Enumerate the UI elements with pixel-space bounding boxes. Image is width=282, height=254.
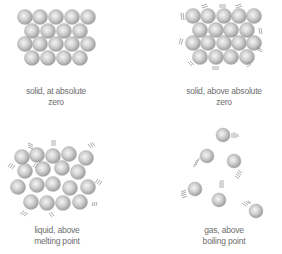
particle-sphere [72, 50, 87, 65]
liquid-cluster [8, 141, 102, 217]
particle-sphere [55, 195, 70, 210]
particle-sphere [29, 177, 44, 192]
particle-sphere [32, 9, 47, 24]
particle-sphere [64, 36, 79, 51]
particle-sphere [72, 194, 87, 209]
particle-sphere [227, 154, 241, 168]
particle-sphere [200, 35, 215, 50]
particle-sphere [32, 36, 47, 51]
particle-sphere [39, 195, 54, 210]
states-of-matter-diagram: solid, at absolute zero solid, above abs… [0, 0, 282, 254]
label-line-1: liquid, above [2, 225, 112, 236]
label-line-1: solid, at absolute [1, 86, 111, 97]
particle-sphere [192, 22, 207, 37]
particle-sphere [239, 22, 254, 37]
particle-sphere [185, 8, 200, 23]
solid-above-zero-lattice [179, 4, 262, 69]
particle-sphere [239, 49, 254, 64]
label-solid-absolute-zero: solid, at absolute zero [1, 86, 111, 108]
diagram-canvas [0, 0, 282, 254]
particle-sphere [62, 180, 77, 195]
particle-sphere [200, 8, 215, 23]
particle-sphere [249, 204, 263, 218]
particle-sphere [29, 147, 44, 162]
particle-sphere [208, 49, 223, 64]
particle-sphere [200, 149, 214, 163]
label-line-2: zero [169, 97, 279, 108]
particle-sphere [80, 36, 95, 51]
particle-sphere [246, 8, 261, 23]
gas-particles [181, 128, 263, 218]
particle-sphere [48, 36, 63, 51]
label-solid-above-absolute-zero: solid, above absolute zero [169, 86, 279, 108]
particle-sphere [10, 179, 25, 194]
particle-sphere [216, 8, 231, 23]
particle-sphere [80, 179, 95, 194]
particle-sphere [45, 176, 60, 191]
particle-sphere [223, 22, 238, 37]
particle-sphere [17, 36, 32, 51]
particle-sphere [40, 23, 55, 38]
particle-sphere [212, 193, 226, 207]
label-line-1: gas, above [169, 225, 279, 236]
particle-sphere [216, 35, 231, 50]
solid-absolute-zero-lattice [17, 9, 95, 65]
particle-sphere [188, 182, 202, 196]
label-line-2: zero [1, 97, 111, 108]
particle-sphere [45, 148, 60, 163]
particle-sphere [14, 149, 29, 164]
particle-sphere [208, 22, 223, 37]
particle-sphere [80, 9, 95, 24]
particle-sphere [56, 50, 71, 65]
label-line-2: melting point [2, 236, 112, 247]
particle-sphere [61, 146, 76, 161]
particle-sphere [216, 128, 230, 142]
label-gas-above-boiling: gas, above boiling point [169, 225, 279, 247]
label-line-2: boiling point [169, 236, 279, 247]
particle-sphere [40, 50, 55, 65]
particle-sphere [72, 23, 87, 38]
particle-sphere [223, 49, 238, 64]
particle-sphere [48, 9, 63, 24]
particle-sphere [78, 150, 93, 165]
particle-sphere [70, 164, 85, 179]
particle-sphere [231, 35, 246, 50]
particle-sphere [23, 194, 38, 209]
particle-sphere [64, 9, 79, 24]
particle-sphere [17, 9, 32, 24]
particle-sphere [24, 23, 39, 38]
particle-sphere [231, 8, 246, 23]
particle-sphere [185, 35, 200, 50]
particle-sphere [35, 161, 50, 176]
particle-sphere [24, 50, 39, 65]
label-liquid-above-melting: liquid, above melting point [2, 225, 112, 247]
particle-sphere [56, 23, 71, 38]
label-line-1: solid, above absolute [169, 86, 279, 97]
particle-sphere [192, 49, 207, 64]
particle-sphere [17, 163, 32, 178]
